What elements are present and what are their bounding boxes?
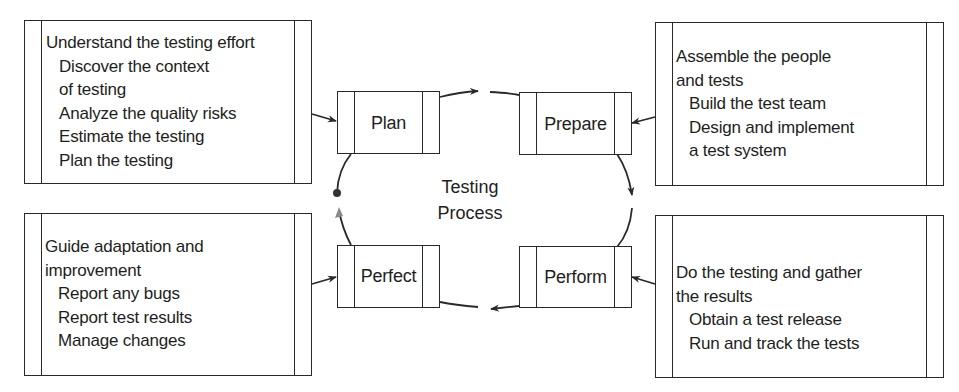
stage-plan: Plan xyxy=(337,91,440,154)
start-arrow-icon xyxy=(335,207,343,218)
desc-line: Guide adaptation and xyxy=(45,235,204,259)
start-marker-icon xyxy=(333,189,341,197)
desc-line: the results xyxy=(676,285,862,309)
stage-perfect-label: Perfect xyxy=(338,266,439,286)
center-label-line-1: Testing xyxy=(425,174,515,200)
desc-line: Discover the context xyxy=(46,55,254,79)
desc-line: Build the test team xyxy=(676,92,854,116)
plan-description-text: Understand the testing effort Discover t… xyxy=(46,31,254,172)
desc-line: Analyze the quality risks xyxy=(46,102,254,126)
desc-line: Report test results xyxy=(45,306,204,330)
perform-description-box: Do the testing and gather the results Ob… xyxy=(655,215,944,378)
arrow-plan-desc-to-plan xyxy=(312,114,336,121)
stage-perfect: Perfect xyxy=(337,245,440,308)
center-label: Testing Process xyxy=(425,174,515,226)
desc-line: Run and track the tests xyxy=(676,332,862,356)
desc-line: Design and implement xyxy=(676,116,854,140)
stage-prepare-label: Prepare xyxy=(520,114,631,134)
perfect-description-text: Guide adaptation and improvement Report … xyxy=(45,235,204,353)
prepare-description-box: Assemble the people and tests Build the … xyxy=(655,22,944,186)
desc-line: and tests xyxy=(676,69,854,93)
prepare-description-text: Assemble the people and tests Build the … xyxy=(676,45,854,163)
stage-plan-label: Plan xyxy=(338,113,439,133)
arrow-plan-arc xyxy=(337,154,351,193)
desc-line: Plan the testing xyxy=(46,149,254,173)
stage-perform-label: Perform xyxy=(520,267,631,287)
desc-line: Do the testing and gather xyxy=(676,261,862,285)
arrow-prepare-desc-to-prepare xyxy=(632,117,655,123)
desc-line: Obtain a test release xyxy=(676,308,862,332)
desc-line: Report any bugs xyxy=(45,282,204,306)
center-label-line-2: Process xyxy=(425,200,515,226)
arrow-perfect-arc xyxy=(440,302,478,307)
perform-description-text: Do the testing and gather the results Ob… xyxy=(676,261,862,355)
desc-line: Assemble the people xyxy=(676,45,854,69)
plan-description-box: Understand the testing effort Discover t… xyxy=(24,20,312,184)
desc-line: Understand the testing effort xyxy=(46,31,254,55)
arrow-perform-desc-to-perform xyxy=(632,277,655,284)
desc-line: of testing xyxy=(46,78,254,102)
arrow-perform-arc xyxy=(617,208,632,247)
arrow-prepare-to-perform xyxy=(617,154,632,195)
stage-prepare: Prepare xyxy=(519,92,632,155)
arrow-prepare-to-perform-start xyxy=(490,92,519,95)
desc-line: a test system xyxy=(676,139,854,163)
desc-line: improvement xyxy=(45,259,204,283)
perfect-description-box: Guide adaptation and improvement Report … xyxy=(24,213,312,376)
stage-perform: Perform xyxy=(519,246,632,308)
desc-line: Manage changes xyxy=(45,329,204,353)
desc-line: Estimate the testing xyxy=(46,125,254,149)
arrow-perform-to-perfect xyxy=(491,306,519,309)
arrow-plan-to-prepare xyxy=(440,91,478,97)
arrow-perfect-desc-to-perfect xyxy=(312,277,336,284)
